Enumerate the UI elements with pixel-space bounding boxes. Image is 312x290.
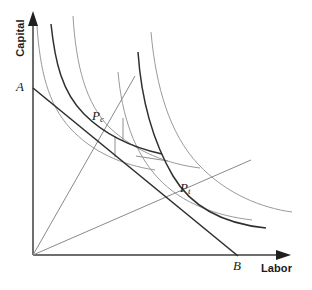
point-label-pt-subscript: t xyxy=(188,186,191,196)
isoquant-light-outer xyxy=(151,32,292,212)
x-axis-title: Labor xyxy=(261,262,292,274)
y-axis-arrow-icon xyxy=(28,11,38,26)
point-label-b: B xyxy=(233,258,241,274)
point-label-pc-subscript: c xyxy=(100,114,104,124)
x-axis-arrow-icon xyxy=(276,250,291,260)
isocost-line-group xyxy=(33,88,238,256)
dark-isoquants-group xyxy=(51,24,266,228)
point-label-pt: Pt xyxy=(180,180,190,196)
isoquant-dark-through-Pc xyxy=(51,24,162,154)
light-isoquants-group xyxy=(37,16,292,220)
y-axis-title: Capital xyxy=(14,9,26,67)
isoquant-isocost-figure: Capital Labor A B Pc Pt xyxy=(0,0,312,290)
point-label-pt-base: P xyxy=(180,180,188,195)
diagram-canvas xyxy=(0,0,312,290)
isoquant-light-mid xyxy=(118,72,252,220)
point-label-pc-base: P xyxy=(92,108,100,123)
isocost-line-AB xyxy=(33,88,238,256)
isoquant-dark-through-Pt xyxy=(138,52,266,228)
axes-group xyxy=(28,11,291,260)
point-label-a: A xyxy=(16,79,24,95)
point-label-pc: Pc xyxy=(92,108,104,124)
expansion-rays-group xyxy=(33,76,251,255)
ray-capital-intensive xyxy=(33,76,135,255)
